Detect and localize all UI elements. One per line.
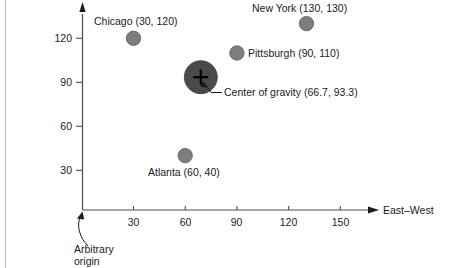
x-axis-arrowhead: [368, 207, 379, 214]
data-point-pittsburgh[interactable]: [230, 46, 244, 60]
data-label-pittsburgh: Pittsburgh (90, 110): [248, 47, 339, 59]
y-axis-arrowhead: [79, 2, 85, 12]
y-axis-ticks: [76, 38, 83, 170]
data-point-chicago[interactable]: [126, 31, 140, 45]
x-tick-label-30: 30: [122, 216, 145, 228]
data-label-chicago: Chicago (30, 120): [94, 15, 177, 27]
x-tick-label-60: 60: [174, 216, 197, 228]
x-tick-label-120: 120: [277, 216, 300, 228]
y-tick-label-120: 120: [50, 32, 72, 44]
x-tick-label-150: 150: [329, 216, 352, 228]
y-tick-label-90: 90: [50, 76, 72, 88]
arbitrary-origin-line-2: origin: [74, 255, 114, 267]
arbitrary-origin-line-1: Arbitrary: [74, 243, 114, 255]
data-label-atlanta: Atlanta (60, 40): [148, 166, 220, 178]
scatter-chart-figure: 120 90 60 30 30 60 90 120 150 East–West …: [0, 0, 463, 268]
arbitrary-origin-note: Arbitrary origin: [74, 243, 114, 267]
x-tick-label-90: 90: [225, 216, 248, 228]
data-point-atlanta[interactable]: [178, 148, 192, 162]
data-label-new-york: New York (130, 130): [252, 2, 347, 14]
data-label-center-of-gravity: Center of gravity (66.7, 93.3): [224, 86, 358, 98]
arbitrary-origin-leader-line: [79, 216, 88, 246]
x-axis-title: East–West: [383, 204, 434, 216]
y-tick-label-60: 60: [50, 120, 72, 132]
arbitrary-origin-arrowhead: [77, 212, 84, 220]
data-point-new-york[interactable]: [299, 16, 313, 30]
y-tick-label-30: 30: [50, 164, 72, 176]
